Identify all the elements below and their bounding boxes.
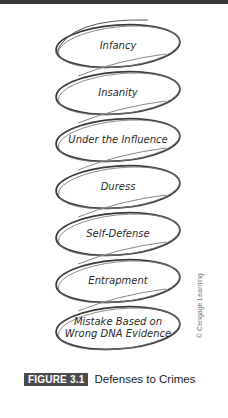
spiral-diagram [0,0,228,418]
defense-label: Infancy [60,40,176,52]
defense-label: Under the Influence [60,134,176,146]
defense-label: Insanity [60,87,176,99]
figure-title: Defenses to Crimes [94,373,195,385]
copyright-credit: © Cengage Learning [196,273,203,338]
figure-number-badge: FIGURE 3.1 [24,373,88,386]
defense-label: Entrapment [60,275,176,287]
defense-label: Duress [60,181,176,193]
defense-label: Self-Defense [60,228,176,240]
figure-caption: FIGURE 3.1 Defenses to Crimes [24,372,195,386]
defense-label: Mistake Based onWrong DNA Evidence [60,316,176,340]
